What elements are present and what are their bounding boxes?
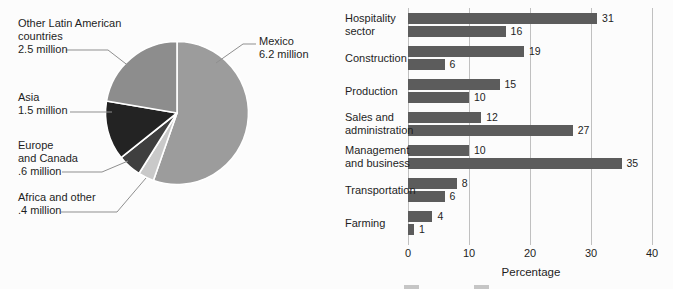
- category-label-production: Production: [345, 85, 415, 98]
- bar-management-and-business-2: [408, 158, 622, 169]
- bar-value-production-1: 15: [505, 78, 517, 91]
- bar-value-hospitality-sector-2: 16: [511, 25, 523, 38]
- bar-sales-and-administration-1: [408, 112, 481, 123]
- category-label-transportation: Transportation: [345, 184, 415, 197]
- x-tick-10: 10: [457, 247, 481, 259]
- bar-value-production-2: 10: [474, 91, 486, 104]
- bar-value-farming-1: 4: [437, 210, 443, 223]
- bar-value-management-and-business-1: 10: [474, 144, 486, 157]
- x-tick-20: 20: [518, 247, 542, 259]
- x-tick-40: 40: [640, 247, 664, 259]
- figure-canvas: Mexico6.2 millionAfrica and other.4 mill…: [0, 0, 673, 289]
- bar-hospitality-sector-1: [408, 13, 597, 24]
- category-label-line: Hospitality: [345, 12, 415, 25]
- category-label-line: Sales and: [345, 111, 415, 124]
- bar-value-sales-and-administration-1: 12: [486, 111, 498, 124]
- category-label-line: administration: [345, 124, 415, 137]
- category-label-line: Farming: [345, 217, 415, 230]
- bar-value-hospitality-sector-1: 31: [602, 12, 614, 25]
- bar-construction-1: [408, 46, 524, 57]
- bar-value-farming-2: 1: [419, 223, 425, 236]
- legend-swatch-partial-2: [474, 285, 489, 289]
- bar-value-construction-1: 19: [529, 45, 541, 58]
- category-label-sales-and-administration: Sales andadministration: [345, 111, 415, 137]
- category-label-line: and business: [345, 157, 415, 170]
- bar-value-management-and-business-2: 35: [627, 157, 639, 170]
- bar-sales-and-administration-2: [408, 125, 573, 136]
- category-label-management-and-business: Managementand business: [345, 144, 415, 170]
- category-label-line: Management: [345, 144, 415, 157]
- bar-hospitality-sector-2: [408, 26, 506, 37]
- bar-value-transportation-2: 6: [450, 190, 456, 203]
- category-label-line: Transportation: [345, 184, 415, 197]
- bar-value-sales-and-administration-2: 27: [578, 124, 590, 137]
- category-label-farming: Farming: [345, 217, 415, 230]
- bar-production-2: [408, 92, 469, 103]
- bar-value-construction-2: 6: [450, 58, 456, 71]
- category-label-line: sector: [345, 25, 415, 38]
- gridline-30: [591, 8, 592, 245]
- x-tick-30: 30: [579, 247, 603, 259]
- bar-value-transportation-1: 8: [462, 177, 468, 190]
- gridline-40: [652, 8, 653, 245]
- category-label-line: Construction: [345, 52, 415, 65]
- x-tick-0: 0: [396, 247, 420, 259]
- legend-swatch-partial-1: [404, 285, 419, 289]
- category-label-line: Production: [345, 85, 415, 98]
- category-label-construction: Construction: [345, 52, 415, 65]
- category-label-hospitality-sector: Hospitalitysector: [345, 12, 415, 38]
- bar-chart: 0102030403116Hospitalitysector196Constru…: [0, 0, 673, 289]
- x-axis-label: Percentage: [491, 266, 571, 278]
- bar-production-1: [408, 79, 500, 90]
- bar-management-and-business-1: [408, 145, 469, 156]
